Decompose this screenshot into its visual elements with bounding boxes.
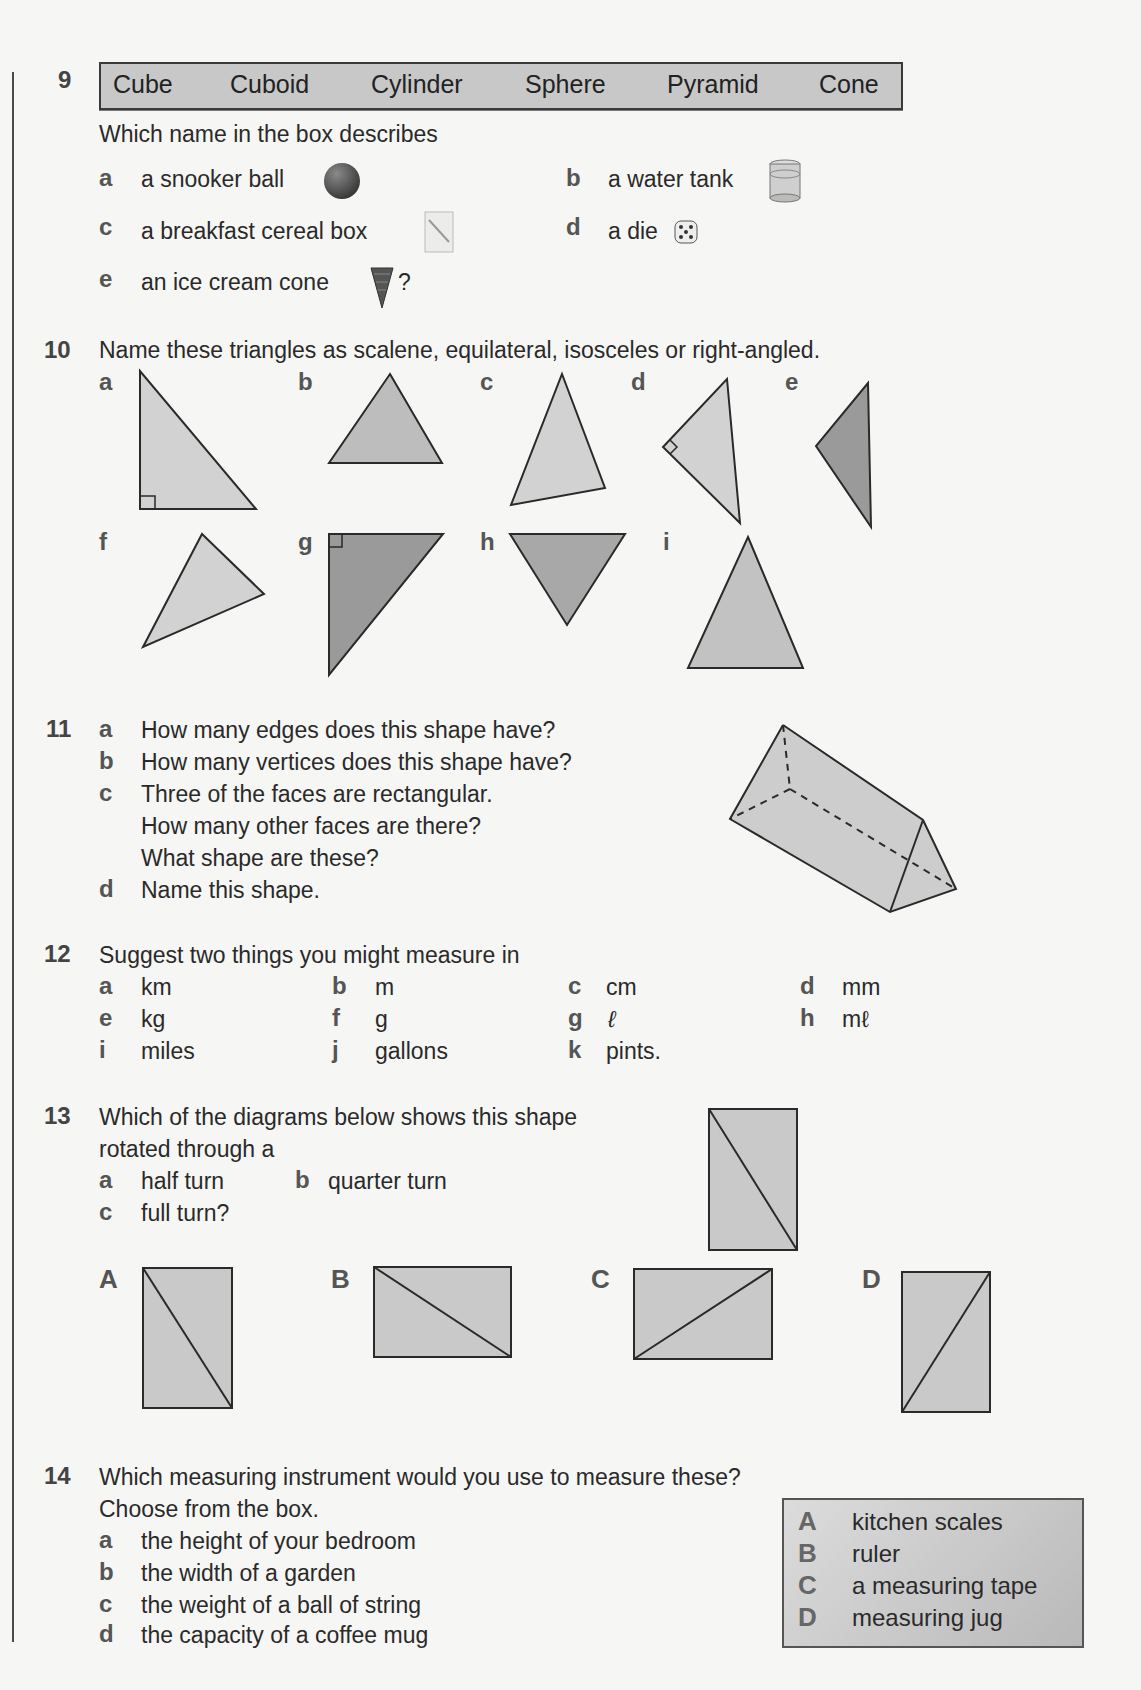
option-label-c: C — [591, 1264, 610, 1295]
original-rectangle — [709, 1109, 797, 1250]
instrument-a: Akitchen scales — [798, 1506, 1003, 1537]
question-14-number: 14 — [44, 1462, 71, 1490]
q14-label-d: d — [99, 1620, 114, 1648]
instrument-c: Ca measuring tape — [798, 1570, 1037, 1601]
q14-item-b: the width of a garden — [141, 1560, 356, 1587]
rotation-figures — [0, 0, 1141, 1420]
q14-label-b: b — [99, 1558, 114, 1586]
q14-prompt-line1: Which measuring instrument would you use… — [99, 1464, 741, 1491]
q14-item-c: the weight of a ball of string — [141, 1592, 421, 1619]
q14-prompt-line2: Choose from the box. — [99, 1496, 319, 1523]
option-label-d: D — [862, 1264, 881, 1295]
instrument-d: Dmeasuring jug — [798, 1602, 1003, 1633]
option-c-rectangle — [634, 1269, 772, 1359]
option-d-rectangle — [902, 1272, 990, 1412]
instrument-b: Bruler — [798, 1538, 900, 1569]
option-a-rectangle — [143, 1268, 232, 1408]
instruments-box: Akitchen scales Bruler Ca measuring tape… — [782, 1498, 1084, 1648]
option-label-b: B — [331, 1264, 350, 1295]
option-b-rectangle — [374, 1267, 511, 1357]
q14-label-a: a — [99, 1526, 112, 1554]
q14-label-c: c — [99, 1590, 112, 1618]
option-label-a: A — [99, 1264, 118, 1295]
q14-item-d: the capacity of a coffee mug — [141, 1622, 428, 1649]
q14-item-a: the height of your bedroom — [141, 1528, 416, 1555]
